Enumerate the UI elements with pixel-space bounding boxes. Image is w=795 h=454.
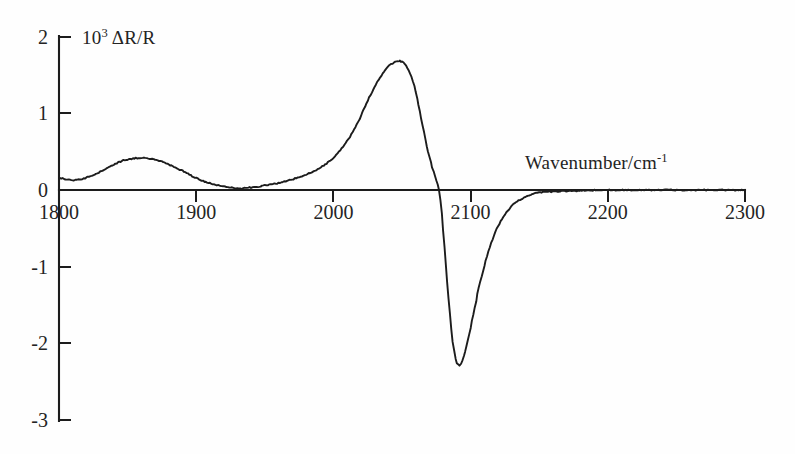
y-tick-label: -2 (0, 333, 48, 353)
x-axis-title: Wavenumber/cm-1 (525, 153, 668, 172)
y-tick-label: 0 (0, 180, 48, 200)
x-tick-label: 2000 (313, 202, 353, 222)
y-tick-label: 1 (0, 103, 48, 123)
x-tick-label: 2200 (588, 202, 628, 222)
x-tick-label: 2300 (725, 202, 765, 222)
x-tick-label: 1900 (176, 202, 216, 222)
y-tick-marks (59, 37, 70, 420)
y-tick-label: -1 (0, 257, 48, 277)
figure-panel: 103 ΔR/R Wavenumber/cm-1 180019002000210… (0, 0, 795, 454)
y-axis-title-base: 10 (82, 27, 101, 48)
y-tick-label: 2 (0, 27, 48, 47)
spectrum-curve (59, 60, 745, 365)
x-tick-label: 1800 (39, 202, 79, 222)
y-axis-title-suffix: ΔR/R (108, 27, 156, 48)
x-axis-title-exponent: -1 (657, 151, 668, 165)
x-tick-marks (59, 190, 745, 201)
spectrum-plot (0, 0, 795, 454)
x-axis-title-base: Wavenumber/cm (525, 152, 657, 173)
x-tick-label: 2100 (451, 202, 491, 222)
y-axis-title: 103 ΔR/R (82, 28, 155, 47)
y-tick-label: -3 (0, 410, 48, 430)
axes-group (59, 36, 745, 421)
